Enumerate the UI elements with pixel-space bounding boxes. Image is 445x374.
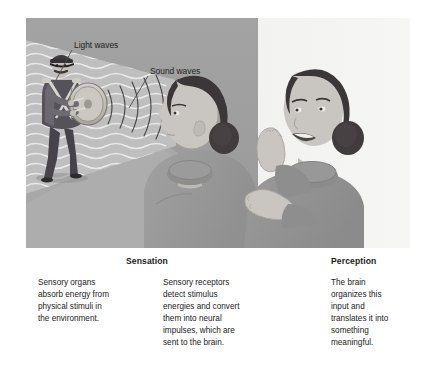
caption-text: Sensory receptors detect stimulus energi…	[163, 277, 285, 350]
figure-root: Light waves Sound waves Sensation Percep…	[0, 0, 445, 374]
caption-column-sensory-receptors: Sensory receptors detect stimulus energi…	[163, 277, 285, 350]
caption-text: The brain organizes this input and trans…	[331, 277, 431, 350]
heading-perception: Perception	[331, 256, 376, 266]
caption-column-sensory-organs: Sensory organs absorb energy from physic…	[38, 277, 156, 325]
caption-column-perception-brain: The brain organizes this input and trans…	[331, 277, 431, 350]
label-sound-waves: Sound waves	[150, 66, 200, 76]
illustration-panel: Light waves Sound waves	[26, 18, 410, 248]
heading-sensation: Sensation	[126, 256, 168, 266]
caption-text: Sensory organs absorb energy from physic…	[38, 277, 156, 325]
label-light-waves: Light waves	[74, 40, 118, 50]
